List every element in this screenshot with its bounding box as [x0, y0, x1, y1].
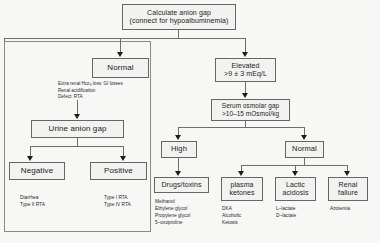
node-renal-failure: Renal failure [328, 177, 368, 201]
node-osm-normal-label: Normal [292, 145, 317, 154]
node-lactic-acidosis: Lactic acidosis [275, 177, 316, 201]
node-negative: Negative [9, 162, 65, 180]
arrow-to-serum-osmolar-gap [242, 93, 248, 98]
connector-main-bus [4, 38, 246, 39]
node-renal-failure-line2: failure [338, 189, 358, 197]
connector-urine-stem [77, 138, 78, 146]
node-elevated: Elevated >9 ± 3 mEq/L [215, 58, 276, 82]
node-drugs-toxins-label: Drugs/toxins [161, 181, 201, 189]
connector-urine-bus [30, 146, 124, 147]
connector-osmolar-bus [178, 127, 305, 128]
caption-lactate-notes: L–lactate D–lactate [276, 206, 296, 220]
connector-high-to-drugs [178, 158, 179, 172]
connector-osm-normal-stem [304, 158, 305, 165]
node-elevated-line1: Elevated [231, 62, 259, 70]
arrow-to-urine-anion-gap [74, 114, 80, 119]
node-drugs-toxins: Drugs/toxins [154, 177, 209, 193]
node-high-label: High [171, 145, 187, 154]
negative-note-line1: Diarrhea [20, 195, 45, 202]
drugs-note-line3: Propylene glycol [155, 213, 190, 220]
node-root-line2: (connect for hypoalbuminemia) [129, 17, 228, 25]
renal-note-line1: Azotemia [330, 206, 350, 213]
node-normal: Normal [92, 58, 149, 78]
arrow-to-high [175, 135, 181, 140]
node-osmolar-line2: >10–15 mOsmol/kg [222, 110, 279, 118]
normal-note-line1: Extra renal Hco₃ loss: GI losses [58, 81, 123, 88]
arrow-to-negative [27, 156, 33, 161]
node-root-line1: Calculate anion gap [147, 9, 211, 17]
arrow-to-lactic-acidosis [292, 171, 298, 176]
arrow-to-plasma-ketones [238, 171, 244, 176]
node-negative-label: Negative [21, 166, 53, 175]
node-osmolar-normal: Normal [285, 141, 324, 158]
normal-note-line2: Renal acidification [58, 88, 123, 95]
node-lactic-acidosis-line1: Lactic [286, 181, 305, 189]
caption-positive-notes: Type I RTA Type IV RTA [104, 195, 131, 209]
node-serum-osmolar-gap: Serum osmolar gap >10–15 mOsmol/kg [211, 99, 290, 121]
node-urine-anion-gap: Urine anion gap [31, 120, 124, 138]
positive-note-line2: Type IV RTA [104, 202, 131, 209]
positive-note-line1: Type I RTA [104, 195, 131, 202]
node-urine-anion-gap-label: Urine anion gap [49, 124, 107, 133]
drugs-note-line1: Methanol [155, 199, 190, 206]
node-elevated-line2: >9 ± 3 mEq/L [224, 70, 267, 78]
node-osmolar-line1: Serum osmolar gap [222, 102, 279, 110]
node-plasma-ketones-line2: ketones [229, 189, 254, 197]
anion-gap-flowchart: Calculate anion gap (connect for hypoalb… [0, 0, 380, 243]
node-renal-failure-line1: Renal [339, 181, 358, 189]
arrow-to-normal [117, 52, 123, 57]
caption-drugs-notes: Methanol Ethylene glycol Propylene glyco… [155, 199, 190, 227]
node-lactic-acidosis-line2: acidosis [282, 189, 308, 197]
node-plasma-ketones-line1: plasma [230, 181, 253, 189]
node-positive-label: Positive [104, 166, 133, 175]
arrow-to-osm-normal [301, 135, 307, 140]
caption-negative-notes: Diarrhea Type II RTA [20, 195, 45, 209]
node-calculate-anion-gap: Calculate anion gap (connect for hypoalb… [122, 4, 236, 30]
lactate-note-line1: L–lactate [276, 206, 296, 213]
ketones-note-line3: Ketosis [222, 220, 241, 227]
caption-renal-notes: Azotemia [330, 206, 350, 213]
connector-bus-to-elevated [245, 38, 246, 53]
arrow-to-elevated [242, 52, 248, 57]
node-high: High [161, 141, 197, 158]
normal-note-line3: Defect: RTA [58, 94, 123, 101]
caption-normal-notes: Extra renal Hco₃ loss: GI losses Renal a… [58, 81, 123, 101]
drugs-note-line4: 5–oxoproline [155, 220, 190, 227]
node-normal-label: Normal [107, 63, 133, 72]
node-plasma-ketones: plasma ketones [221, 177, 263, 201]
arrow-to-positive [120, 156, 126, 161]
arrow-to-drugs-toxins [175, 171, 181, 176]
negative-note-line2: Type II RTA [20, 202, 45, 209]
ketones-note-line2: Alcoholic [222, 213, 241, 220]
connector-bus-to-normal [120, 38, 121, 53]
connector-root-stem [178, 30, 179, 38]
caption-ketones-notes: DKA Alcoholic Ketosis [222, 206, 241, 227]
ketones-note-line1: DKA [222, 206, 241, 213]
arrow-to-renal-failure [344, 171, 350, 176]
drugs-note-line2: Ethylene glycol [155, 206, 190, 213]
node-positive: Positive [90, 162, 147, 180]
lactate-note-line2: D–lactate [276, 213, 296, 220]
